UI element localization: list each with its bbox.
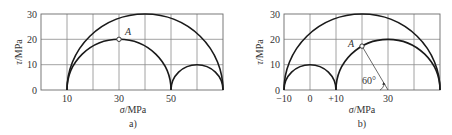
figure-b: A 60° 0 10 20 30 −10 0 +10 30 τ/MPa σ/MP…: [254, 9, 440, 131]
svg-text:20: 20: [270, 34, 280, 45]
mohr-circle-figures: A 0 10 20 30 10 30 50 τ/MPa σ/MPa a): [0, 0, 452, 135]
svg-text:τ/MPa: τ/MPa: [13, 39, 24, 65]
point-a-label-b: A: [347, 38, 355, 49]
svg-text:30: 30: [383, 93, 393, 104]
angle-arrow-icon: [382, 82, 385, 85]
x-ticks-a: 10 30 50: [62, 93, 176, 104]
y-ticks-b: 0 10 20 30: [270, 9, 280, 96]
svg-text:10: 10: [270, 59, 280, 70]
point-a-marker: [117, 37, 121, 41]
svg-text:+10: +10: [328, 93, 344, 104]
svg-text:10: 10: [27, 59, 37, 70]
x-axis-label-b: σ/MPa: [349, 104, 376, 115]
svg-text:30: 30: [114, 93, 124, 104]
point-a-label: A: [124, 26, 132, 37]
svg-text:0: 0: [32, 85, 37, 96]
svg-text:0: 0: [308, 93, 313, 104]
figure-a: A 0 10 20 30 10 30 50 τ/MPa σ/MPa a): [13, 9, 223, 131]
caption-a: a): [129, 118, 137, 130]
x-ticks-b: −10 0 +10 30: [276, 93, 393, 104]
y-axis-label-b: τ/MPa: [254, 39, 265, 65]
svg-text:τ/MPa: τ/MPa: [254, 39, 265, 65]
x-axis-label-a: σ/MPa: [120, 104, 147, 115]
svg-text:−10: −10: [276, 93, 292, 104]
y-ticks-a: 0 10 20 30: [27, 9, 37, 96]
point-a-marker-b: [360, 44, 364, 48]
y-axis-label-a: τ/MPa: [13, 39, 24, 65]
svg-text:20: 20: [27, 34, 37, 45]
svg-text:30: 30: [27, 9, 37, 20]
caption-b: b): [358, 118, 366, 130]
svg-text:10: 10: [62, 93, 72, 104]
svg-text:50: 50: [166, 93, 176, 104]
svg-text:30: 30: [270, 9, 280, 20]
angle-label-b: 60°: [362, 75, 376, 86]
